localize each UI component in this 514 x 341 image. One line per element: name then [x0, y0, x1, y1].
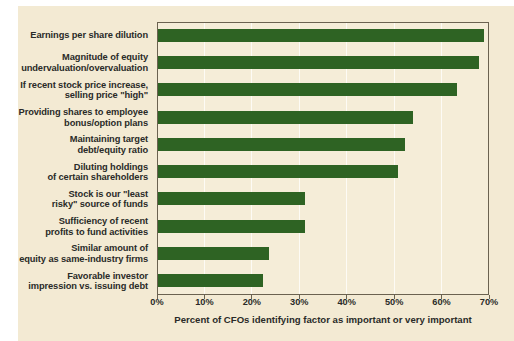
bar	[158, 83, 457, 96]
bar	[158, 247, 269, 260]
category-label-line: undervaluation/overvaluation	[0, 63, 148, 74]
category-label-line: Sufficiency of recent	[0, 216, 148, 227]
x-tick-label: 30%	[290, 297, 308, 307]
category-label-line: Similar amount of	[0, 243, 148, 254]
category-label: Similar amount ofequity as same-industry…	[0, 243, 148, 264]
x-tick-label: 40%	[338, 297, 356, 307]
bar	[158, 274, 263, 287]
category-label: Stock is our "leastrisky" source of fund…	[0, 189, 148, 210]
chart-figure: Earnings per share dilutionMagnitude of …	[0, 0, 514, 341]
category-label-line: Providing shares to employee	[0, 107, 148, 118]
category-label-column: Earnings per share dilutionMagnitude of …	[0, 22, 153, 295]
x-tick-label: 0%	[150, 297, 163, 307]
bar-row	[158, 165, 490, 178]
category-label: Earnings per share dilution	[0, 30, 148, 41]
category-label: Favorable investorimpression vs. issuing…	[0, 271, 148, 292]
bar-row	[158, 247, 490, 260]
bar	[158, 220, 305, 233]
category-label-line: of certain shareholders	[0, 172, 148, 183]
x-tick-label: 20%	[243, 297, 261, 307]
bar-row	[158, 138, 490, 151]
bar	[158, 138, 405, 151]
category-label-line: equity as same-industry firms	[0, 254, 148, 265]
category-label: Maintaining targetdebt/equity ratio	[0, 134, 148, 155]
x-tick-label: 10%	[195, 297, 213, 307]
bar	[158, 192, 305, 205]
plot-area	[157, 22, 489, 295]
bar	[158, 165, 398, 178]
category-label: If recent stock price increase,selling p…	[0, 80, 148, 101]
category-label: Providing shares to employeebonus/option…	[0, 107, 148, 128]
bar-row	[158, 274, 490, 287]
category-label-line: impression vs. issuing debt	[0, 281, 148, 292]
bar	[158, 111, 413, 124]
bar	[158, 56, 479, 69]
category-label-line: profits to fund activities	[0, 227, 148, 238]
category-label-line: Favorable investor	[0, 271, 148, 282]
category-label-line: Earnings per share dilution	[0, 30, 148, 41]
bar-row	[158, 111, 490, 124]
x-tick-label: 70%	[480, 297, 498, 307]
x-axis-title: Percent of CFOs identifying factor as im…	[157, 314, 489, 325]
bar	[158, 29, 484, 42]
bar-row	[158, 220, 490, 233]
category-label-line: If recent stock price increase,	[0, 80, 148, 91]
x-tick-label: 60%	[432, 297, 450, 307]
category-label: Sufficiency of recentprofits to fund act…	[0, 216, 148, 237]
category-label-line: Maintaining target	[0, 134, 148, 145]
bar-row	[158, 83, 490, 96]
bar-row	[158, 192, 490, 205]
bar-row	[158, 56, 490, 69]
category-label-line: Stock is our "least	[0, 189, 148, 200]
category-label: Diluting holdingsof certain shareholders	[0, 162, 148, 183]
category-label-line: risky" source of funds	[0, 199, 148, 210]
category-label-line: bonus/option plans	[0, 118, 148, 129]
category-label-line: selling price "high"	[0, 90, 148, 101]
category-label-line: Diluting holdings	[0, 162, 148, 173]
category-label: Magnitude of equityundervaluation/overva…	[0, 52, 148, 73]
x-tick-label: 50%	[385, 297, 403, 307]
bar-row	[158, 29, 490, 42]
category-label-line: debt/equity ratio	[0, 145, 148, 156]
category-label-line: Magnitude of equity	[0, 52, 148, 63]
